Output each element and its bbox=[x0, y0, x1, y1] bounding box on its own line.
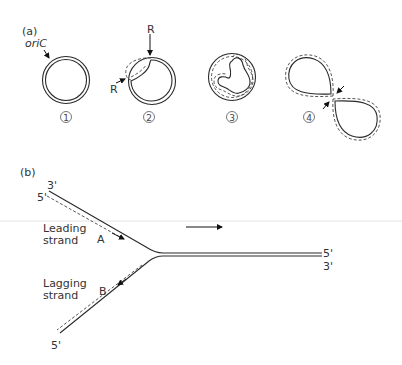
parental-strand-top bbox=[49, 191, 322, 253]
fork-label-top: R bbox=[147, 23, 155, 36]
stage-number-1: 1 bbox=[61, 112, 72, 123]
stage-3-circle bbox=[209, 54, 256, 101]
stage-number-2: 2 bbox=[144, 112, 155, 123]
stage-2-theta: R R bbox=[110, 23, 176, 105]
stage-1-circle bbox=[43, 50, 90, 104]
oric-label: oriC bbox=[25, 37, 47, 50]
separation-arrow-bottom-icon bbox=[323, 102, 329, 109]
oric-arrow-icon bbox=[44, 50, 49, 58]
fork-label-left: R bbox=[110, 83, 118, 96]
lagging-strand-arrow-icon bbox=[118, 279, 126, 285]
svg-text:3: 3 bbox=[229, 113, 235, 123]
panel-a: (a) oriC R R bbox=[22, 23, 380, 140]
stage-4-figure-eight bbox=[286, 55, 381, 140]
right-3prime-label: 3' bbox=[323, 260, 333, 273]
panel-b-label: (b) bbox=[20, 166, 36, 179]
separation-arrow-top-icon bbox=[337, 86, 344, 93]
right-5prime-label: 5' bbox=[323, 247, 333, 260]
top-left-3prime-label: 3' bbox=[47, 179, 57, 192]
dna-replication-diagram: (a) oriC R R bbox=[0, 0, 402, 365]
lagging-strand-label-2: strand bbox=[43, 289, 78, 302]
leading-strand-label-2: strand bbox=[43, 234, 78, 247]
leading-strand-arrow-icon bbox=[112, 233, 124, 239]
bottom-5prime-label: 5' bbox=[51, 339, 61, 352]
stage-number-3: 3 bbox=[227, 112, 238, 123]
svg-text:1: 1 bbox=[63, 113, 69, 123]
stage-number-4: 4 bbox=[304, 112, 315, 123]
svg-text:4: 4 bbox=[306, 113, 312, 123]
point-b-label: B bbox=[99, 285, 107, 298]
point-a-label: A bbox=[97, 233, 105, 246]
top-left-5prime-label: 5' bbox=[37, 191, 47, 204]
svg-text:2: 2 bbox=[146, 113, 152, 123]
panel-b: (b) 3' 5' 5' 3' Leading strand A Lagging… bbox=[20, 166, 333, 352]
